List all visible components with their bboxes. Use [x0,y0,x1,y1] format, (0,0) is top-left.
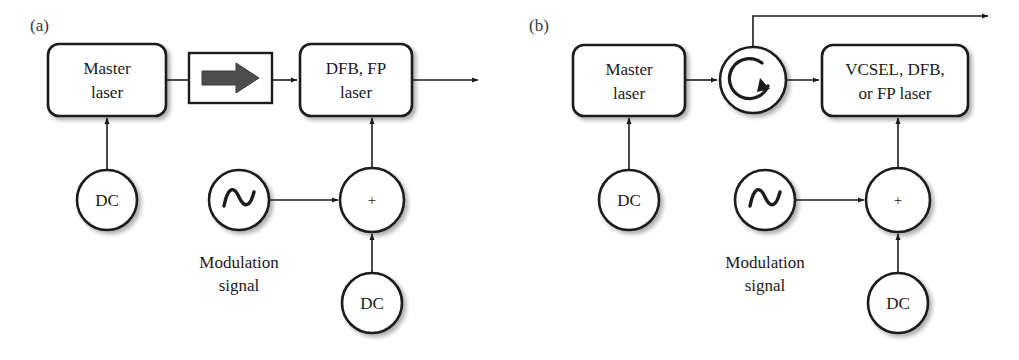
modulation-caption-line2: signal [745,276,786,295]
panel-b-output-path [753,16,988,47]
panel-a-isolator-block [189,53,272,103]
panel-a-slave-laser-block [300,44,412,116]
master-laser-label-line2: laser [613,84,645,103]
panel-b-label: (b) [529,16,549,35]
dc-bias-slave-label: DC [886,294,910,313]
dc-bias-master-label: DC [617,191,641,210]
dc-bias-slave-label: DC [360,294,384,313]
master-laser-box [573,45,685,116]
modulation-caption-line1: Modulation [725,253,805,272]
optical-injection-locking-diagram: (a) Master laser DFB, FP laser [0,0,1019,360]
panel-a-modulation-source [209,170,269,230]
panel-b-master-laser-block [573,45,685,116]
summing-node-label: + [368,192,376,208]
modulation-caption-line2: signal [219,276,260,295]
slave-laser-box [300,44,412,116]
panel-b-modulation-source [735,170,795,230]
slave-laser-label-line1: DFB, FP [326,59,386,78]
panel-a-label: (a) [30,16,49,35]
panel-b-slave-laser-block [822,45,968,116]
slave-laser-box [822,45,968,116]
panel-a-master-laser-block [48,44,166,116]
slave-laser-label-line2: or FP laser [858,84,931,103]
master-laser-label-line2: laser [91,83,123,102]
master-laser-label-line1: Master [83,59,131,78]
panel-b-circulator [720,47,786,113]
dc-bias-master-label: DC [95,191,119,210]
slave-laser-label-line1: VCSEL, DFB, [845,60,945,79]
summing-node-label: + [894,192,902,208]
slave-laser-label-line2: laser [340,83,372,102]
panel-a: (a) Master laser DFB, FP laser [30,16,478,333]
diagram-canvas: (a) Master laser DFB, FP laser [0,0,1019,360]
modulation-caption-line1: Modulation [199,253,279,272]
master-laser-label-line1: Master [605,60,653,79]
panel-b: (b) Master laser VCSEL, DF [529,16,988,333]
master-laser-box [48,44,166,116]
